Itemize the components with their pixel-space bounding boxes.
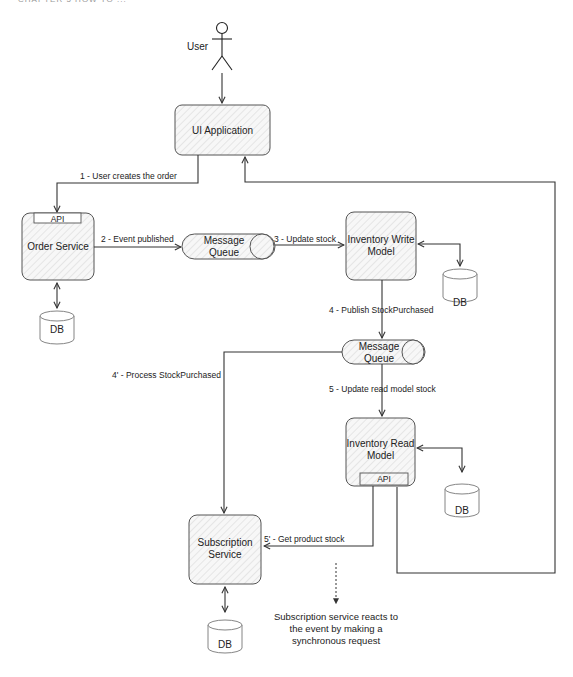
order-service-label: Order Service: [27, 241, 89, 252]
read-db-node: DB: [445, 484, 479, 517]
inventory-read-line1: Inventory Read: [347, 438, 415, 449]
edge-user-creates-order: [57, 155, 198, 212]
user-label: User: [187, 41, 209, 52]
edge-2-label: 2 - Event published: [101, 234, 174, 244]
subscription-db-label: DB: [218, 639, 232, 650]
ui-application-node[interactable]: UI Application: [175, 105, 270, 155]
subscription-line2: Service: [208, 549, 242, 560]
subscription-db-node: DB: [208, 620, 242, 653]
edge-process-stockpurchased: [224, 352, 342, 513]
mq1-label-line1: Message: [204, 235, 245, 246]
read-db-connector: [417, 448, 462, 472]
architecture-diagram: User UI Application 1 - User creates the…: [0, 0, 573, 677]
read-db-label: DB: [455, 505, 469, 516]
edge-4-label: 4 - Publish StockPurchased: [329, 305, 434, 315]
inventory-read-line2: Model: [367, 450, 394, 461]
message-queue-1-node[interactable]: Message Queue: [182, 234, 275, 259]
order-db-node: DB: [40, 311, 74, 344]
mq1-label-line2: Queue: [209, 247, 239, 258]
ui-application-label: UI Application: [192, 125, 253, 136]
annotation-note: Subscription service reacts to the event…: [274, 611, 398, 646]
write-db-node: DB: [443, 269, 477, 308]
subscription-service-node[interactable]: Subscription Service: [189, 515, 261, 584]
inventory-write-line2: Model: [367, 246, 394, 257]
write-db-label: DB: [453, 297, 467, 308]
order-db-label: DB: [50, 324, 64, 335]
inventory-read-model-node[interactable]: Inventory Read Model API: [346, 418, 415, 486]
annotation-line1: Subscription service reacts to: [274, 611, 398, 622]
order-api-label: API: [51, 214, 65, 224]
stick-figure-icon: [212, 23, 232, 71]
inventory-write-line1: Inventory Write: [347, 234, 414, 245]
message-queue-2-node[interactable]: Message Queue: [342, 340, 425, 364]
subscription-line1: Subscription: [197, 537, 252, 548]
edge-5-label: 5 - Update read model stock: [329, 384, 437, 394]
edge-4p-label: 4' - Process StockPurchased: [112, 370, 221, 380]
edge-1-label: 1 - User creates the order: [80, 171, 177, 181]
annotation-line3: synchronous request: [292, 635, 381, 646]
annotation-line2: the event by making a: [290, 623, 384, 634]
inventory-read-api-label: API: [377, 474, 391, 484]
edge-3-label: 3 - Update stock: [274, 234, 337, 244]
order-service-node[interactable]: API Order Service: [22, 213, 94, 280]
mq2-label-line2: Queue: [364, 353, 394, 364]
edge-5p-label: 5' - Get product stock: [264, 534, 345, 544]
user-actor: User: [187, 23, 232, 71]
inventory-write-model-node[interactable]: Inventory Write Model: [346, 212, 416, 280]
write-db-connector: [418, 244, 460, 266]
mq2-label-line1: Message: [359, 341, 400, 352]
